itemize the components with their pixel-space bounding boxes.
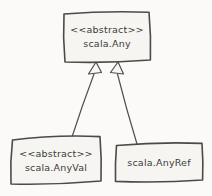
diagram-svg: <<abstract>> scala.Any <<abstract>> scal… xyxy=(0,0,212,196)
stereotype-label: <<abstract>> xyxy=(70,24,143,35)
class-name-label: scala.AnyVal xyxy=(25,162,87,173)
stereotype-label: <<abstract>> xyxy=(19,148,92,159)
edge-line xyxy=(72,74,94,137)
edge-anyref-to-any xyxy=(111,62,138,144)
generalization-arrowhead-icon xyxy=(89,62,102,74)
class-box-outline xyxy=(11,136,102,184)
generalization-arrowhead-icon xyxy=(111,62,124,74)
class-name-label: scala.AnyRef xyxy=(127,157,191,168)
class-name-label: scala.Any xyxy=(83,38,131,49)
class-box-scala-anyref: scala.AnyRef xyxy=(115,143,203,182)
class-box-scala-anyval: <<abstract>> scala.AnyVal xyxy=(11,136,102,184)
uml-class-diagram: <<abstract>> scala.Any <<abstract>> scal… xyxy=(0,0,212,196)
edge-line xyxy=(118,74,138,144)
edge-anyval-to-any xyxy=(72,62,102,137)
class-box-scala-any: <<abstract>> scala.Any xyxy=(64,12,151,63)
